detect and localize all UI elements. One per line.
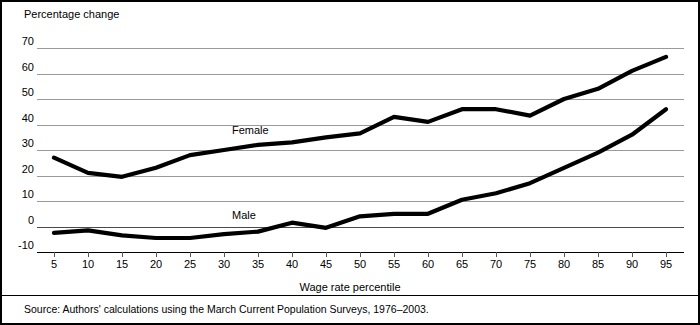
plot-area: 706050403020100-10 510152025303540455055… bbox=[0, 0, 700, 325]
series-label-female: Female bbox=[232, 124, 269, 136]
source-divider bbox=[0, 295, 700, 296]
series-label-male: Male bbox=[232, 209, 256, 221]
chart-figure: Percentage change 706050403020100-10 510… bbox=[0, 0, 700, 325]
data-series-layer bbox=[0, 0, 700, 325]
x-axis-title: Wage rate percentile bbox=[0, 281, 700, 293]
line-series-male bbox=[54, 109, 666, 238]
source-note: Source: Authors' calculations using the … bbox=[24, 303, 429, 315]
line-series-female bbox=[54, 57, 666, 177]
